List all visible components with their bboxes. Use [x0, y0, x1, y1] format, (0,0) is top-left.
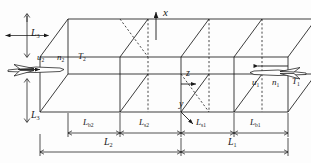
aircraft-right-fuselage	[250, 70, 306, 76]
dim-label-segment-b2: Lb2	[83, 118, 94, 127]
dim-label-total-L2: L2	[104, 137, 113, 147]
flow-left-param-n: n2	[57, 53, 64, 62]
axis-label-z: z	[186, 68, 190, 78]
partition-oblique-3	[234, 19, 262, 57]
box-oblique-top-left	[40, 19, 68, 57]
dim-label-depth: L3	[31, 110, 40, 120]
aircraft-right-wing-upper	[280, 68, 300, 73]
partition-oblique-2	[181, 19, 209, 57]
partition-lower-oblique-1	[120, 74, 148, 112]
dim-label-segment-s1: Ls1	[196, 118, 206, 127]
dim-label-total-L1: L1	[228, 137, 237, 147]
flow-right-param-u: u1	[252, 78, 259, 87]
dim-label-segment-s2: Ls2	[139, 118, 149, 127]
diagram-linework	[0, 0, 311, 163]
dim-label-segment-b1: Lb1	[250, 118, 261, 127]
box-oblique-bottom-left	[40, 74, 68, 112]
aircraft-left-wing-upper	[14, 65, 34, 70]
axis-label-y: y	[179, 99, 183, 109]
flow-right-param-T: T1	[292, 77, 300, 86]
flow-left-param-T: T2	[78, 52, 86, 61]
partition-lower-oblique-2	[181, 74, 209, 112]
flow-left-param-u: u2	[37, 53, 44, 62]
flow-right-param-n: n1	[272, 78, 279, 87]
figure-canvas: x z y u2 n2 T2 u1 n1 T1 L3 L3 Lb2 Ls2 Ls…	[0, 0, 311, 163]
box-oblique-top-right	[288, 19, 311, 57]
aircraft-icon-left	[8, 65, 64, 77]
partition-oblique-1	[120, 19, 148, 57]
y-axis-arrow	[181, 112, 193, 124]
dim-label-height: L3	[31, 28, 40, 38]
axis-label-x: x	[163, 7, 168, 18]
